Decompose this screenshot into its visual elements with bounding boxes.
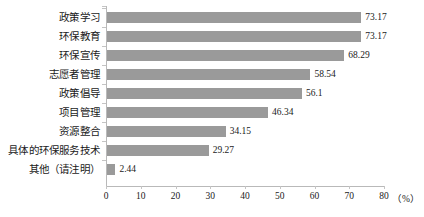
horizontal-bar-chart: 政策学习73.17环保教育73.17环保宣传68.29志愿者管理58.54政策倡… [0,0,424,217]
x-axis-tick [384,186,385,189]
y-axis-tick [102,122,106,123]
y-axis-tick [102,65,106,66]
x-axis-tick [176,186,177,189]
bar-row: 政策学习73.17 [106,8,384,27]
category-label: 环保教育 [0,27,100,46]
bar-row: 项目管理46.34 [106,103,384,122]
y-axis-tick [102,27,106,28]
category-label: 资源整合 [0,122,100,141]
bar [107,107,268,118]
x-axis-unit-label: （%） [392,191,420,205]
x-axis-tick-label: 0 [104,191,109,201]
x-axis-tick-label: 40 [240,191,250,201]
bar [107,164,115,175]
x-axis-tick-label: 70 [345,191,355,201]
bar-value-label: 58.54 [314,65,335,84]
y-axis-tick [102,103,106,104]
bar-value-label: 34.15 [230,122,251,141]
category-label: 项目管理 [0,103,100,122]
category-label: 政策倡导 [0,84,100,103]
bar-value-label: 29.27 [213,141,234,160]
bar [107,69,310,80]
y-axis-tick [102,46,106,47]
x-axis-tick [280,186,281,189]
bar [107,88,302,99]
bar-value-label: 73.17 [365,27,386,46]
category-label: 具体的环保服务技术 [0,141,100,160]
bar-row: 其他（请注明）2.44 [106,160,384,179]
bar-row: 志愿者管理58.54 [106,65,384,84]
bar-value-label: 73.17 [365,8,386,27]
bar [107,12,361,23]
x-axis-tick-label: 10 [136,191,146,201]
bar-row: 环保宣传68.29 [106,46,384,65]
y-axis-tick [102,84,106,85]
y-axis-tick [102,141,106,142]
bar-row: 资源整合34.15 [106,122,384,141]
bar-row: 政策倡导56.1 [106,84,384,103]
bar [107,145,209,156]
bar [107,126,226,137]
x-axis-tick-label: 20 [171,191,181,201]
x-axis-tick [210,186,211,189]
x-axis-tick [141,186,142,189]
category-label: 志愿者管理 [0,65,100,84]
category-label: 政策学习 [0,8,100,27]
x-axis-tick-label: 80 [379,191,389,201]
bar [107,50,344,61]
x-axis-tick-label: 50 [275,191,285,201]
x-axis-tick-label: 30 [206,191,216,201]
x-axis-tick-label: 60 [310,191,320,201]
bar-row: 环保教育73.17 [106,27,384,46]
bar-value-label: 2.44 [119,160,136,179]
y-axis-tick [102,8,106,9]
x-axis-tick [349,186,350,189]
bar-value-label: 46.34 [272,103,293,122]
bar-row: 具体的环保服务技术29.27 [106,141,384,160]
x-axis-tick [245,186,246,189]
bar-value-label: 56.1 [306,84,323,103]
bar [107,31,361,42]
y-axis-tick [102,160,106,161]
category-label: 其他（请注明） [0,160,100,179]
category-label: 环保宣传 [0,46,100,65]
bar-value-label: 68.29 [348,46,369,65]
x-axis-tick [106,186,107,189]
x-axis-tick [315,186,316,189]
plot-area: 政策学习73.17环保教育73.17环保宣传68.29志愿者管理58.54政策倡… [106,6,384,186]
